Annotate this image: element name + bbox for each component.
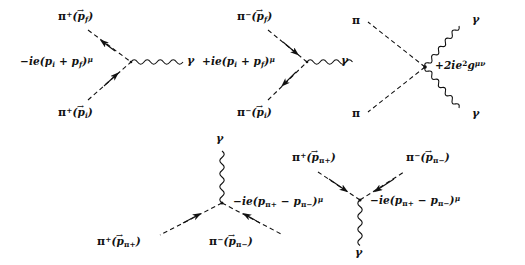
- pion-arrow-right: [246, 215, 260, 223]
- label-pair-up-pi-minus: π−(pπ−): [209, 236, 253, 248]
- label-pi-plus-pi: π+(pi): [58, 107, 93, 119]
- pion-arrow-incoming: [284, 72, 296, 84]
- diagram-pi-minus-emission: [268, 30, 353, 100]
- vertex-dot: [130, 61, 133, 64]
- photon-line: [358, 200, 362, 246]
- label-seagull-pion-bottom: π: [352, 108, 360, 119]
- pion-line-bottom: [368, 67, 425, 112]
- label-seagull-photon-top: γ: [472, 14, 479, 25]
- diagram-pi-plus-emission: [88, 30, 183, 100]
- pion-arrow-left: [183, 215, 198, 223]
- diagram-pair-annihilation-up: [160, 151, 283, 235]
- label-photon-gamma-4: γ: [216, 133, 223, 144]
- vertex-dot: [359, 199, 362, 202]
- photon-line: [131, 60, 183, 64]
- label-seagull-photon-bottom: γ: [472, 108, 479, 119]
- diagram-pair-annihilation-down: [318, 172, 404, 246]
- photon-line: [220, 151, 224, 203]
- pion-line-top: [368, 22, 425, 67]
- vertex-label-pair-down: −ie(pπ+ − pπ−)μ: [370, 195, 460, 207]
- pion-arrow-incoming: [104, 75, 116, 86]
- label-seagull-pion-top: π: [352, 15, 360, 26]
- label-pi-minus-pi: π−(pi): [237, 107, 272, 119]
- label-pi-minus-pf: π−(pf): [237, 11, 272, 23]
- label-photon-gamma-1: γ: [187, 55, 194, 66]
- label-pair-down-pi-plus: π+(pπ+): [292, 152, 336, 164]
- pion-arrow-right: [377, 179, 394, 190]
- label-photon-gamma-5: γ: [355, 247, 362, 258]
- vertex-dot: [306, 61, 309, 64]
- vertex-dot: [423, 65, 427, 69]
- photon-line-bottom: [425, 67, 459, 108]
- feynman-diagram-canvas: [0, 0, 525, 265]
- vertex-label-pair-up: −ie(pπ+ − pπ−)μ: [233, 196, 323, 208]
- vertex-label-pi-plus-emission: −ie(pi + pf)μ: [20, 56, 93, 68]
- label-photon-gamma-2: γ: [341, 55, 348, 66]
- vertex-label-seagull: +2ie2gμν: [435, 60, 486, 71]
- vertex-label-pi-minus-emission: +ie(pi + pf)μ: [202, 56, 275, 68]
- vertex-dot: [221, 202, 224, 205]
- pion-line-outgoing: [88, 30, 131, 62]
- label-pi-plus-pf: π+(pf): [58, 11, 93, 23]
- pion-arrow-outgoing: [283, 42, 296, 53]
- pion-arrow-outgoing: [103, 42, 115, 51]
- feynman-diagram-figure: π+(pf) π+(pi) −ie(pi + pf)μ γ π−(pf) π−(…: [0, 0, 525, 265]
- pion-arrow-left: [329, 179, 345, 190]
- label-pair-up-pi-plus: π+(pπ+): [97, 236, 141, 248]
- label-pair-down-pi-minus: π−(pπ−): [406, 152, 450, 164]
